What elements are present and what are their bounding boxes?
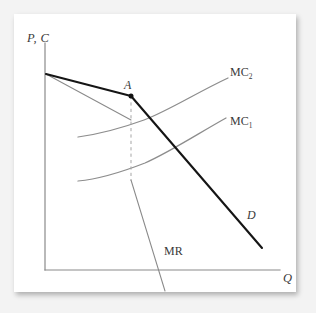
- demand-upper-segment: [46, 74, 131, 96]
- point-a-marker: [129, 94, 134, 99]
- mc2-label-text: MC: [230, 65, 249, 79]
- mr-upper-segment: [46, 74, 131, 120]
- demand-label: D: [247, 209, 256, 221]
- mc1-label-subscript: 1: [249, 121, 253, 130]
- mc2-label-subscript: 2: [249, 72, 253, 81]
- mc2-label: MC2: [230, 66, 252, 78]
- x-axis-label: Q: [283, 272, 292, 285]
- y-axis-label: P, C: [27, 32, 49, 45]
- mc1-label: MC1: [230, 115, 252, 127]
- kinked-demand-chart: [0, 0, 316, 313]
- mc2-curve: [78, 78, 228, 137]
- mc1-label-text: MC: [230, 114, 249, 128]
- point-a-label: A: [124, 79, 131, 91]
- figure-root: P, C Q MC2 MC1 A D MR: [0, 0, 316, 313]
- mr-label: MR: [164, 245, 183, 257]
- mc1-curve: [78, 118, 226, 181]
- mr-lower-segment: [131, 180, 165, 291]
